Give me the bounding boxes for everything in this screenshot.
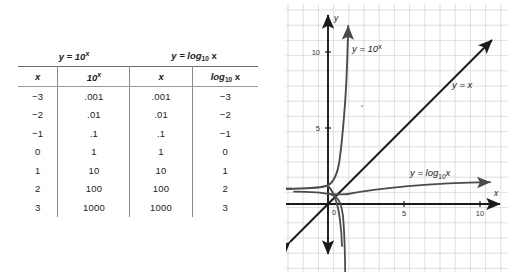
cell-logx: 0 bbox=[192, 143, 258, 162]
grid-lines bbox=[286, 4, 508, 272]
curve-label-exponential: y = 10x bbox=[351, 43, 382, 55]
column-header-logx-subscript: 10 bbox=[225, 76, 232, 83]
cell-tenx: .01 bbox=[58, 106, 130, 125]
cell-tenx: 1 bbox=[58, 143, 130, 162]
cell-x2: 10 bbox=[130, 161, 192, 180]
group-header-exponential: y = 10x bbox=[18, 50, 130, 67]
cell-x1: −2 bbox=[18, 106, 58, 125]
group-header-log-suffix: x bbox=[211, 50, 216, 61]
table-row: 3 1000 1000 3 bbox=[18, 198, 258, 217]
cell-logx: −1 bbox=[192, 124, 258, 143]
print-speck bbox=[361, 105, 363, 107]
cell-logx: −2 bbox=[192, 106, 258, 125]
cell-x2: 1000 bbox=[130, 198, 192, 217]
table-row: 1 10 10 1 bbox=[18, 161, 258, 180]
x-axis-name: x bbox=[493, 188, 499, 198]
table-row: 2 100 100 2 bbox=[18, 180, 258, 199]
table-row: 0 1 1 0 bbox=[18, 143, 258, 162]
cell-x2: 1 bbox=[130, 143, 192, 162]
group-header-logarithm: y = log10 x bbox=[130, 50, 258, 67]
cell-x1: 2 bbox=[18, 180, 58, 199]
table-column-header-row: x 10x x log10 x bbox=[18, 67, 258, 87]
x-tick-label-5: 5 bbox=[402, 209, 406, 218]
cell-x2: .001 bbox=[130, 87, 192, 106]
cell-tenx: 100 bbox=[58, 180, 130, 199]
cell-tenx: .1 bbox=[58, 124, 130, 143]
y-tick-label-5: 5 bbox=[316, 124, 320, 133]
cell-x2: 100 bbox=[130, 180, 192, 199]
cell-logx: 3 bbox=[192, 198, 258, 217]
cell-logx: 1 bbox=[192, 161, 258, 180]
column-header-logx-suffix: x bbox=[235, 71, 240, 82]
cell-x2: .1 bbox=[130, 124, 192, 143]
table-row: −1 .1 .1 −1 bbox=[18, 124, 258, 143]
value-table: y = 10x y = log10 x x 10x x log10 x −3 .… bbox=[18, 50, 258, 217]
curve-label-logarithm: y = log10x bbox=[409, 167, 452, 180]
cell-x1: 0 bbox=[18, 143, 58, 162]
column-header-x1: x bbox=[18, 67, 58, 87]
cell-tenx: .001 bbox=[58, 87, 130, 106]
curve-label-identity: y = x bbox=[451, 79, 474, 90]
graph-panel: 5 10 5 10 0 x y y = 10x y = x y = log10x bbox=[286, 4, 508, 272]
cell-x1: 3 bbox=[18, 198, 58, 217]
column-header-tenx: 10x bbox=[58, 67, 130, 87]
y-tick-label-10: 10 bbox=[312, 48, 320, 57]
table-row: −3 .001 .001 −3 bbox=[18, 87, 258, 106]
column-header-tenx-superscript: x bbox=[97, 71, 101, 78]
table-row: −2 .01 .01 −2 bbox=[18, 106, 258, 125]
cell-tenx: 1000 bbox=[58, 198, 130, 217]
cell-logx: 2 bbox=[192, 180, 258, 199]
cell-x1: 1 bbox=[18, 161, 58, 180]
coordinate-plane: 5 10 5 10 0 x y y = 10x y = x y = log10x bbox=[286, 4, 508, 272]
curve-label-logarithm-suffix: x bbox=[445, 167, 452, 178]
curve-label-exponential-superscript: x bbox=[378, 43, 382, 50]
cell-x1: −1 bbox=[18, 124, 58, 143]
table-group-header-row: y = 10x y = log10 x bbox=[18, 50, 258, 67]
curve-identity bbox=[290, 40, 492, 242]
group-header-log-subscript: 10 bbox=[202, 55, 209, 62]
column-header-logx: log10 x bbox=[192, 67, 258, 87]
x-tick-label-10: 10 bbox=[476, 209, 484, 218]
cell-x2: .01 bbox=[130, 106, 192, 125]
cell-x1: −3 bbox=[18, 87, 58, 106]
cell-logx: −3 bbox=[192, 87, 258, 106]
figure-exponential-logarithm: y = 10x y = log10 x x 10x x log10 x −3 .… bbox=[0, 0, 515, 275]
cell-tenx: 10 bbox=[58, 161, 130, 180]
column-header-x2: x bbox=[130, 67, 192, 87]
y-axis-name: y bbox=[333, 13, 339, 23]
table-panel: y = 10x y = log10 x x 10x x log10 x −3 .… bbox=[0, 0, 278, 275]
group-header-exp-superscript: x bbox=[85, 50, 89, 57]
origin-label: 0 bbox=[332, 208, 336, 217]
